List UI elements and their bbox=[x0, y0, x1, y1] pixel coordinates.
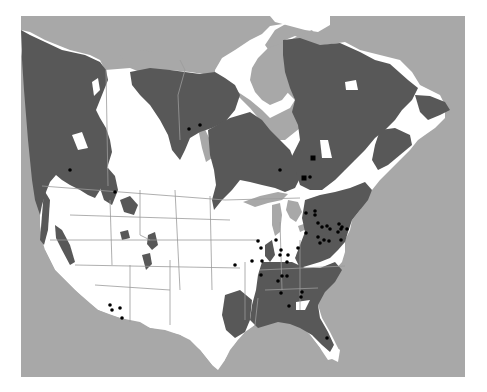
record-dot-marker bbox=[279, 248, 283, 252]
record-dot-marker bbox=[287, 304, 291, 308]
record-dot-marker bbox=[339, 227, 343, 231]
record-dot-marker bbox=[118, 306, 122, 310]
record-dot-marker bbox=[285, 274, 289, 278]
record-dot-marker bbox=[108, 303, 112, 307]
record-dot-marker bbox=[187, 127, 191, 131]
record-dot-marker bbox=[337, 222, 341, 226]
record-dot-marker bbox=[304, 231, 308, 235]
record-dot-marker bbox=[279, 291, 283, 295]
record-dot-marker bbox=[285, 260, 289, 264]
record-dot-marker bbox=[316, 221, 320, 225]
record-dot-marker bbox=[308, 175, 312, 179]
record-dot-marker bbox=[198, 123, 202, 127]
record-dot-marker bbox=[259, 273, 263, 277]
record-dot-marker bbox=[259, 246, 263, 250]
record-dot-marker bbox=[328, 227, 332, 231]
record-dot-marker bbox=[313, 213, 317, 217]
record-dot-marker bbox=[300, 290, 304, 294]
record-dot-marker bbox=[68, 168, 72, 172]
record-square-marker bbox=[302, 176, 307, 181]
record-dot-marker bbox=[250, 259, 254, 263]
record-dot-marker bbox=[336, 230, 340, 234]
record-dot-marker bbox=[299, 295, 303, 299]
record-dot-marker bbox=[280, 274, 284, 278]
record-dot-marker bbox=[313, 209, 317, 213]
record-dot-marker bbox=[274, 238, 278, 242]
record-dot-marker bbox=[278, 168, 282, 172]
record-dot-marker bbox=[113, 190, 117, 194]
record-dot-marker bbox=[316, 235, 320, 239]
record-square-marker bbox=[311, 156, 316, 161]
record-dot-marker bbox=[233, 263, 237, 267]
record-dot-marker bbox=[345, 227, 349, 231]
record-dot-marker bbox=[120, 316, 124, 320]
record-dot-marker bbox=[260, 259, 264, 263]
record-dot-marker bbox=[327, 239, 331, 243]
record-dot-marker bbox=[322, 238, 326, 242]
record-dot-marker bbox=[110, 308, 114, 312]
record-dot-marker bbox=[278, 253, 282, 257]
range-map bbox=[0, 0, 487, 392]
record-dot-marker bbox=[320, 225, 324, 229]
record-dot-marker bbox=[325, 224, 329, 228]
record-dot-marker bbox=[256, 239, 260, 243]
record-dot-marker bbox=[339, 238, 343, 242]
record-dot-marker bbox=[296, 246, 300, 250]
map-canvas bbox=[0, 0, 487, 392]
record-dot-marker bbox=[286, 253, 290, 257]
record-dot-marker bbox=[325, 336, 329, 340]
record-dot-marker bbox=[276, 279, 280, 283]
record-dot-marker bbox=[318, 241, 322, 245]
record-dot-marker bbox=[304, 211, 308, 215]
